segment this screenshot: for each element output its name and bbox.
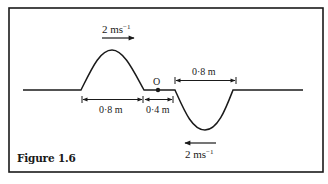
trough-width-label: 0·8 m [192, 66, 216, 77]
crest-width-label: 0·8 m [99, 104, 123, 115]
point-o-marker [156, 88, 160, 92]
trough-velocity-label: 2 ms−1 [185, 148, 214, 160]
point-o-label: O [153, 76, 160, 87]
crest-velocity-label: 2 ms−1 [102, 23, 131, 35]
wave-string [23, 50, 303, 130]
figure-caption: Figure 1.6 [17, 152, 76, 164]
figure-frame: O 2 ms−1 0·8 m 0·4 m 0·8 m 2 ms−1 Figure… [0, 0, 328, 184]
gap-label: 0·4 m [146, 104, 170, 115]
